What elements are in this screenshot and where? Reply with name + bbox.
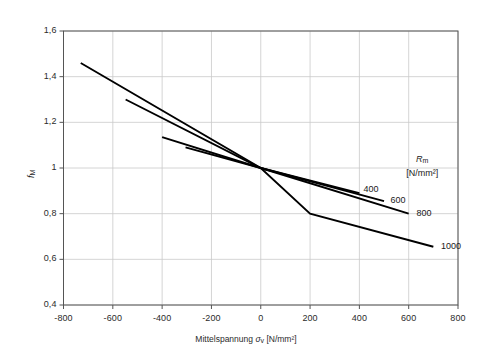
x-tick-label: 0 — [241, 313, 281, 323]
x-tick-label: -600 — [93, 313, 133, 323]
y-axis-title-symbol: f — [26, 175, 36, 178]
data-curves — [81, 63, 434, 247]
curve-1000 — [81, 63, 434, 247]
y-tick-label: 1,6 — [44, 25, 57, 35]
curve-600 — [162, 137, 384, 201]
x-tick-label: -800 — [44, 313, 84, 323]
y-axis-title-subscript: M — [29, 170, 36, 176]
y-tick-label: 0,4 — [44, 299, 57, 309]
legend-title: Rm — [391, 153, 453, 167]
x-axis-title: Mittelspannung σv [N/mm²] — [0, 334, 492, 344]
x-axis-title-units: [N/mm²] — [266, 334, 296, 344]
x-tick-label: 200 — [290, 313, 330, 323]
y-tick-label: 1 — [51, 162, 56, 172]
y-tick-label: 0,8 — [44, 208, 57, 218]
y-tick-label: 0,6 — [44, 253, 57, 263]
x-tick-label: 800 — [438, 313, 478, 323]
curve-label-400: 400 — [363, 184, 378, 194]
x-axis-title-text: Mittelspannung — [195, 334, 253, 344]
y-axis-title: fM — [26, 170, 36, 178]
y-tick-label: 1,4 — [44, 71, 57, 81]
curve-label-800: 800 — [416, 208, 431, 218]
legend-title-block: Rm[N/mm²] — [391, 153, 453, 180]
legend-units: [N/mm²] — [391, 167, 453, 180]
chart-figure: 0,40,60,811,21,41,6 -800-600-400-2000200… — [0, 0, 492, 356]
x-tick-label: 600 — [389, 313, 429, 323]
curve-label-1000: 1000 — [441, 241, 461, 251]
x-tick-label: 400 — [339, 313, 379, 323]
legend-title-subscript: m — [423, 157, 429, 164]
x-tick-label: -200 — [191, 313, 231, 323]
y-tick-label: 1,2 — [44, 116, 57, 126]
x-axis-title-subscript: v — [261, 337, 265, 344]
curve-label-600: 600 — [390, 195, 405, 205]
x-tick-label: -400 — [142, 313, 182, 323]
